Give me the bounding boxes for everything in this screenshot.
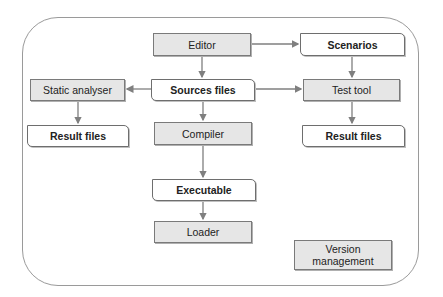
- node-editor: Editor: [153, 33, 251, 56]
- node-version-management: Version management: [294, 240, 392, 270]
- node-test-tool: Test tool: [303, 79, 400, 101]
- node-scenarios: Scenarios: [300, 33, 405, 56]
- node-executable: Executable: [152, 179, 256, 201]
- node-result-files-right: Result files: [302, 125, 405, 147]
- node-sources-files: Sources files: [151, 79, 255, 101]
- node-loader: Loader: [154, 221, 252, 243]
- node-result-files-left: Result files: [27, 125, 129, 147]
- node-static-analyser: Static analyser: [30, 79, 125, 101]
- node-compiler: Compiler: [154, 122, 252, 145]
